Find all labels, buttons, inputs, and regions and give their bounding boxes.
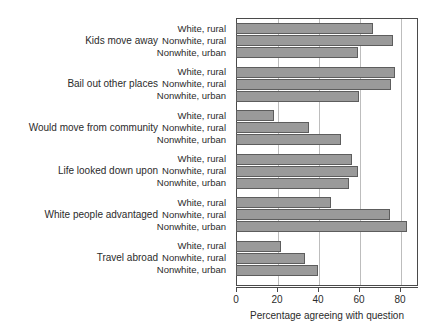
series-label: White, rural bbox=[177, 66, 226, 77]
bar bbox=[236, 197, 331, 208]
series-label: White, rural bbox=[177, 23, 226, 34]
series-label: Nonwhite, rural bbox=[162, 252, 226, 263]
group-label: White people advantaged bbox=[45, 209, 158, 221]
series-label: White, rural bbox=[177, 153, 226, 164]
bar bbox=[236, 122, 309, 133]
bar bbox=[236, 79, 391, 90]
series-label: Nonwhite, urban bbox=[157, 264, 226, 275]
x-tick-80 bbox=[400, 287, 401, 292]
series-label: Nonwhite, rural bbox=[162, 35, 226, 46]
bar bbox=[236, 47, 358, 58]
bar bbox=[236, 265, 318, 276]
series-label: Nonwhite, rural bbox=[162, 122, 226, 133]
x-axis-title: Percentage agreeing with question bbox=[236, 310, 418, 322]
series-label: White, rural bbox=[177, 110, 226, 121]
series-label: Nonwhite, urban bbox=[157, 47, 226, 58]
x-ticklabel: 60 bbox=[344, 294, 374, 305]
bar bbox=[236, 178, 349, 189]
group-label: Life looked down upon bbox=[58, 165, 158, 177]
series-label: Nonwhite, rural bbox=[162, 78, 226, 89]
bar bbox=[236, 166, 358, 177]
bar bbox=[236, 221, 407, 232]
bar bbox=[236, 253, 305, 264]
group-labels: Kids move awayBail out other placesWould… bbox=[0, 18, 158, 286]
bar bbox=[236, 134, 341, 145]
x-ticklabel: 20 bbox=[262, 294, 292, 305]
bars-layer bbox=[236, 18, 418, 286]
series-label: Nonwhite, urban bbox=[157, 90, 226, 101]
bar bbox=[236, 241, 281, 252]
bar bbox=[236, 154, 352, 165]
group-label: Bail out other places bbox=[67, 78, 158, 90]
bar bbox=[236, 91, 359, 102]
group-label: Kids move away bbox=[85, 35, 158, 47]
x-axis-line bbox=[236, 287, 418, 288]
x-tick-60 bbox=[359, 287, 360, 292]
x-tick-20 bbox=[277, 287, 278, 292]
x-tick-40 bbox=[318, 287, 319, 292]
x-ticklabel: 0 bbox=[221, 294, 251, 305]
x-ticklabel: 80 bbox=[385, 294, 415, 305]
bar bbox=[236, 23, 373, 34]
group-label: Would move from community bbox=[29, 122, 158, 134]
series-label: Nonwhite, urban bbox=[157, 221, 226, 232]
series-label: Nonwhite, rural bbox=[162, 209, 226, 220]
bar bbox=[236, 35, 393, 46]
series-label: White, rural bbox=[177, 197, 226, 208]
series-label: White, rural bbox=[177, 240, 226, 251]
bar bbox=[236, 110, 274, 121]
x-tick-0 bbox=[236, 287, 237, 292]
bar-chart: White, ruralNonwhite, ruralNonwhite, urb… bbox=[0, 0, 440, 334]
series-label: Nonwhite, rural bbox=[162, 165, 226, 176]
x-ticklabel: 40 bbox=[303, 294, 333, 305]
series-label: Nonwhite, urban bbox=[157, 177, 226, 188]
series-label: Nonwhite, urban bbox=[157, 134, 226, 145]
bar bbox=[236, 67, 395, 78]
group-label: Travel abroad bbox=[97, 252, 158, 264]
bar bbox=[236, 209, 390, 220]
